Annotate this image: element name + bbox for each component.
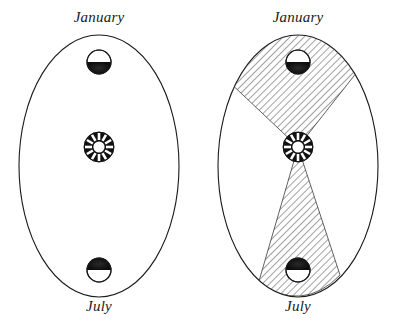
sector-january-hatched — [225, 18, 357, 147]
earth-july-icon — [87, 258, 111, 282]
sun-icon — [283, 132, 313, 162]
month-label-july-left: July — [0, 297, 198, 315]
diagram-panel-left: January — [0, 0, 198, 334]
orbit-diagram-left — [0, 0, 198, 334]
diagram-panel-right: January — [199, 0, 397, 334]
orbit-diagram-right — [199, 0, 397, 334]
earth-january-icon — [87, 50, 111, 74]
month-label-july-right: July — [199, 297, 397, 315]
earth-january-icon — [286, 50, 310, 74]
sun-icon — [84, 132, 114, 162]
orbit-figure: January — [0, 0, 397, 334]
earth-july-icon — [286, 258, 310, 282]
